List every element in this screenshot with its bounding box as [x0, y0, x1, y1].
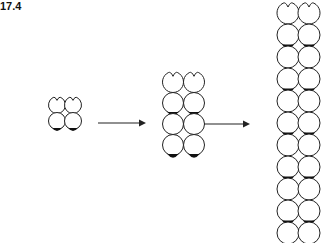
arrowhead-icon	[139, 120, 146, 127]
cell	[49, 113, 66, 130]
cell	[163, 135, 184, 156]
cell	[65, 113, 82, 130]
stage-3	[277, 3, 320, 243]
cell	[277, 156, 299, 178]
cell	[184, 135, 205, 156]
cell	[277, 46, 299, 68]
dark-cap	[52, 128, 61, 131]
notched-cell	[65, 97, 82, 113]
notched-cell	[277, 3, 299, 24]
cell	[298, 24, 320, 46]
cell	[277, 200, 299, 222]
cell	[298, 178, 320, 200]
stage-2	[163, 72, 205, 157]
cell-stack-diagram	[0, 0, 324, 243]
notched-cell	[48, 97, 65, 113]
cell	[277, 112, 299, 134]
arrowhead-icon	[243, 121, 250, 128]
cell	[184, 114, 205, 135]
cell	[298, 90, 320, 112]
cell	[298, 200, 320, 222]
notched-cell	[184, 72, 205, 92]
dark-cap	[68, 128, 77, 131]
cell	[277, 134, 299, 156]
stage-1	[48, 97, 81, 131]
cell	[298, 156, 320, 178]
dark-cap	[167, 154, 179, 158]
cell	[277, 24, 299, 46]
cell	[163, 93, 184, 114]
cell	[277, 222, 299, 243]
cell	[184, 93, 205, 114]
cell	[277, 90, 299, 112]
notched-cell	[298, 3, 320, 24]
cell	[298, 112, 320, 134]
cell	[298, 134, 320, 156]
dark-cap	[188, 154, 200, 158]
notched-cell	[163, 72, 184, 92]
arrow-2	[204, 121, 250, 128]
cell	[298, 68, 320, 90]
cell	[298, 46, 320, 68]
cell	[298, 222, 320, 243]
cell	[163, 114, 184, 135]
cell	[277, 178, 299, 200]
cell	[277, 68, 299, 90]
arrow-1	[98, 120, 146, 127]
